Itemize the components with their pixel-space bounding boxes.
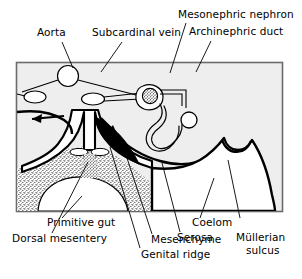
label-mullerian-sulcus: Müllerian	[236, 231, 285, 243]
label-primitive-gut: Primitive gut	[47, 216, 115, 228]
subcardinal-vein	[82, 93, 105, 105]
label-subcardinal-vein: Subcardinal vein	[92, 26, 181, 38]
aorta	[58, 66, 79, 87]
left-vessel	[24, 91, 46, 103]
label-mullerian-sulcus-cont: sulcus	[246, 244, 280, 256]
anatomical-figure: Aorta Subcardinal vein Mesonephric nephr…	[0, 0, 302, 279]
label-serosa: Serosa	[177, 231, 213, 243]
glomerulus	[142, 88, 157, 103]
label-mesonephric-nephron: Mesonephric nephron	[178, 8, 294, 20]
label-coelom: Coelom	[192, 216, 232, 228]
label-archinephric-duct: Archinephric duct	[189, 25, 283, 37]
label-dorsal-mesentery: Dorsal mesentery	[12, 232, 107, 244]
archinephric-duct	[181, 112, 197, 128]
label-genital-ridge: Genital ridge	[141, 248, 210, 260]
label-aorta: Aorta	[37, 26, 66, 38]
